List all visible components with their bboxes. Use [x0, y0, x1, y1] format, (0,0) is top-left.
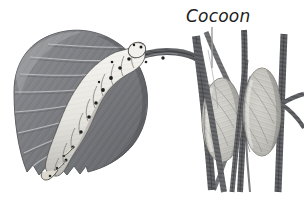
- cocoon-label: Cocoon: [186, 6, 250, 26]
- illustration-figure: Cocoon: [0, 0, 304, 200]
- twig-bud: [145, 61, 148, 64]
- illustration-canvas: Cocoon: [0, 0, 304, 200]
- twig-bud: [161, 56, 164, 59]
